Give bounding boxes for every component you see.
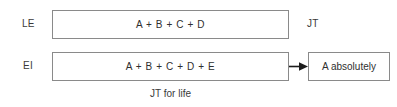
arrow-right-icon bbox=[289, 60, 309, 73]
diagram-caption: JT for life bbox=[113, 88, 228, 99]
block-box-row2: A + B + C + D + E bbox=[52, 52, 289, 81]
block-box-row1-text: A + B + C + D bbox=[136, 19, 205, 30]
row-label-ei: EI bbox=[23, 60, 33, 71]
block-box-row2-text: A + B + C + D + E bbox=[126, 61, 216, 72]
row-side-label-jt: JT bbox=[307, 18, 319, 29]
block-box-row1: A + B + C + D bbox=[52, 10, 289, 39]
result-box-text: A absolutely bbox=[322, 61, 376, 72]
result-box: A absolutely bbox=[308, 52, 390, 81]
row-label-le: LE bbox=[22, 18, 35, 29]
diagram-canvas: LE A + B + C + D JT EI A + B + C + D + E… bbox=[0, 0, 397, 107]
